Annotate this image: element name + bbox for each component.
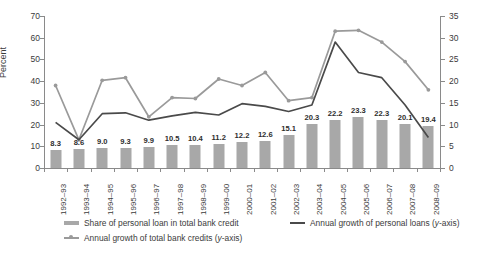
y-axis-right-tick: [441, 103, 445, 104]
x-axis-tick: [91, 168, 92, 172]
legend-swatch-gray-line-icon: [64, 237, 79, 239]
y-axis-left-tick-label: 40: [18, 77, 40, 86]
line-marker: [427, 88, 431, 92]
y-axis-right-tick-label: 35: [449, 12, 458, 21]
y-axis-right-tick-label: 0: [449, 164, 454, 173]
x-axis-tick: [277, 168, 278, 172]
x-axis-tick: [44, 168, 45, 172]
x-axis-tick-label: 1993–94: [82, 184, 91, 215]
line-marker: [217, 77, 221, 81]
x-axis-tick: [370, 168, 371, 172]
y-axis-left-tick-label: 30: [18, 99, 40, 108]
x-axis-tick-label: 1998–99: [199, 184, 208, 215]
x-axis-tick-label: 1997–98: [176, 184, 185, 215]
x-axis-tick-label: 1996–97: [152, 184, 161, 215]
line-marker: [147, 115, 151, 119]
legend-label-share: Share of personal loan in total bank cre…: [84, 218, 239, 228]
x-axis-tick: [440, 168, 441, 172]
x-axis-tick: [254, 168, 255, 172]
legend-swatch-dark-line-icon: [290, 222, 305, 224]
x-axis-tick-label: 2000–01: [245, 184, 254, 215]
x-axis-tick-label: 2004–05: [339, 184, 348, 215]
y-axis-right-tick: [441, 81, 445, 82]
x-axis-tick-label: 1999–00: [222, 184, 231, 215]
line-marker: [333, 29, 337, 33]
y-axis-left-tick-label: 20: [18, 121, 40, 130]
line-marker: [263, 71, 267, 75]
x-axis-tick: [393, 168, 394, 172]
plot-area: 8.38.69.09.39.910.510.411.212.212.615.12…: [44, 16, 440, 168]
y-axis-right-tick-label: 10: [449, 121, 458, 130]
line-marker: [54, 84, 58, 88]
y-axis-right-tick: [441, 38, 445, 39]
legend-label-personal-loans: Annual growth of personal loans (y-axis): [310, 218, 459, 228]
x-axis-tick: [300, 168, 301, 172]
chart-legend: Share of personal loan in total bank cre…: [22, 218, 482, 248]
x-axis-tick: [207, 168, 208, 172]
y-axis-left-tick-label: 70: [18, 12, 40, 21]
x-axis-tick: [160, 168, 161, 172]
x-axis-tick-label: 2005–06: [362, 184, 371, 215]
x-axis-tick: [137, 168, 138, 172]
legend-item-total-credits: Annual growth of total bank credits (y-a…: [64, 233, 242, 243]
legend-label-total-credits: Annual growth of total bank credits (y-a…: [84, 233, 242, 243]
line-marker: [194, 97, 198, 101]
line-marker: [403, 60, 407, 64]
y-axis-right-tick: [441, 168, 445, 169]
x-axis-tick-label: 2008–09: [432, 184, 441, 215]
y-axis-right-tick: [441, 125, 445, 126]
x-axis-tick: [184, 168, 185, 172]
x-axis-tick: [114, 168, 115, 172]
x-axis-tick-label: 1992–93: [59, 184, 68, 215]
x-axis-tick: [230, 168, 231, 172]
x-axis-tick-label: 2001–02: [269, 184, 278, 215]
x-axis-tick: [67, 168, 68, 172]
x-axis-tick-label: 2003–04: [315, 184, 324, 215]
y-axis-right-line: [440, 16, 441, 168]
y-axis-right-tick-label: 5: [449, 142, 454, 151]
y-axis-right-tick: [441, 146, 445, 147]
line-marker: [170, 96, 174, 100]
x-axis-tick-label: 2007–08: [408, 184, 417, 215]
y-axis-right-tick-label: 25: [449, 55, 458, 64]
legend-swatch-bar-icon: [64, 221, 79, 225]
x-axis-tick-label: 1994–95: [106, 184, 115, 215]
line-marker: [380, 40, 384, 44]
line-marker: [310, 96, 314, 100]
y-axis-left-tick-label: 10: [18, 142, 40, 151]
x-axis-tick-label: 2006–07: [385, 184, 394, 215]
line-marker: [287, 99, 291, 103]
x-axis-line: [44, 168, 441, 169]
line-marker: [240, 84, 244, 88]
x-axis-tick: [417, 168, 418, 172]
chart-container: Percent 010203040506070 05101520253035 8…: [0, 0, 488, 260]
legend-item-share: Share of personal loan in total bank cre…: [64, 218, 239, 228]
line-marker: [100, 78, 104, 82]
y-axis-left-tick-label: 50: [18, 55, 40, 64]
x-axis-labels: 1992–931993–941994–951995–961996–971997–…: [44, 171, 440, 217]
x-axis-tick-label: 1995–96: [129, 184, 138, 215]
line-marker: [124, 76, 128, 80]
x-axis-tick: [324, 168, 325, 172]
x-axis-tick: [347, 168, 348, 172]
y-axis-label: Percent: [0, 47, 8, 78]
legend-item-personal-loans: Annual growth of personal loans (y-axis): [290, 218, 459, 228]
line-series: [56, 42, 429, 140]
line-marker: [357, 28, 361, 32]
y-axis-left-tick-label: 0: [18, 164, 40, 173]
y-axis-right-tick-label: 15: [449, 99, 458, 108]
x-axis-tick-label: 2002–03: [292, 184, 301, 215]
y-axis-right-tick-label: 20: [449, 77, 458, 86]
line-series-layer: [44, 16, 440, 168]
y-axis-right-tick: [441, 59, 445, 60]
y-axis-right-tick: [441, 16, 445, 17]
y-axis-left-tick-label: 60: [18, 34, 40, 43]
y-axis-right-tick-label: 30: [449, 34, 458, 43]
